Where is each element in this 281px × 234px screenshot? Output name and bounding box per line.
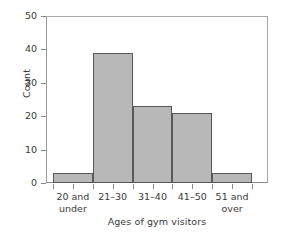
x-axis-tick-mark [192,184,193,189]
y-axis-tick: 30 [0,83,46,84]
histogram-bar [133,106,173,183]
x-axis-category-label: 51 and over [206,191,258,215]
y-axis-tick-label: 30 [25,76,37,89]
y-axis-tick-label: 50 [25,9,37,22]
x-axis-tick-mark [133,184,134,189]
y-axis-tick: 40 [0,49,46,50]
x-axis-tick-mark [93,184,94,189]
x-axis-tick-mark [172,184,173,189]
x-axis-tick-mark [232,184,233,189]
y-axis-tick-label: 10 [25,143,37,156]
x-axis-tick-mark [212,184,213,189]
x-axis-tick-mark [73,184,74,189]
x-axis-tick-mark [153,184,154,189]
x-axis-title: Ages of gym visitors [46,216,268,227]
x-axis-tick-mark [113,184,114,189]
y-axis-tick: 20 [0,116,46,117]
y-axis-tick-label: 40 [25,42,37,55]
y-axis-tick: 50 [0,16,46,17]
histogram-bar [172,113,212,183]
histogram-bar [53,173,93,183]
x-axis-tick-mark [252,184,253,189]
y-axis-tick-label: 0 [31,176,37,189]
x-axis-tick-mark [53,184,54,189]
y-axis-tick-mark [41,183,46,184]
histogram-chart: Count 01020304050 20 and under21–3031–40… [0,0,281,234]
histogram-bar [93,53,133,183]
y-axis-tick-label: 20 [25,109,37,122]
y-axis-tick: 10 [0,150,46,151]
bars-layer [46,16,268,183]
y-axis-tick: 0 [0,183,46,184]
histogram-bar [212,173,252,183]
